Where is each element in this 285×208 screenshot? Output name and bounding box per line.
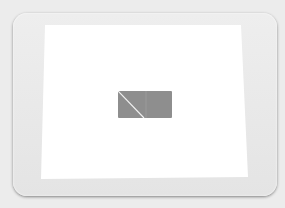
gray-rectangle-shape xyxy=(118,91,172,118)
shape-body xyxy=(118,91,172,118)
